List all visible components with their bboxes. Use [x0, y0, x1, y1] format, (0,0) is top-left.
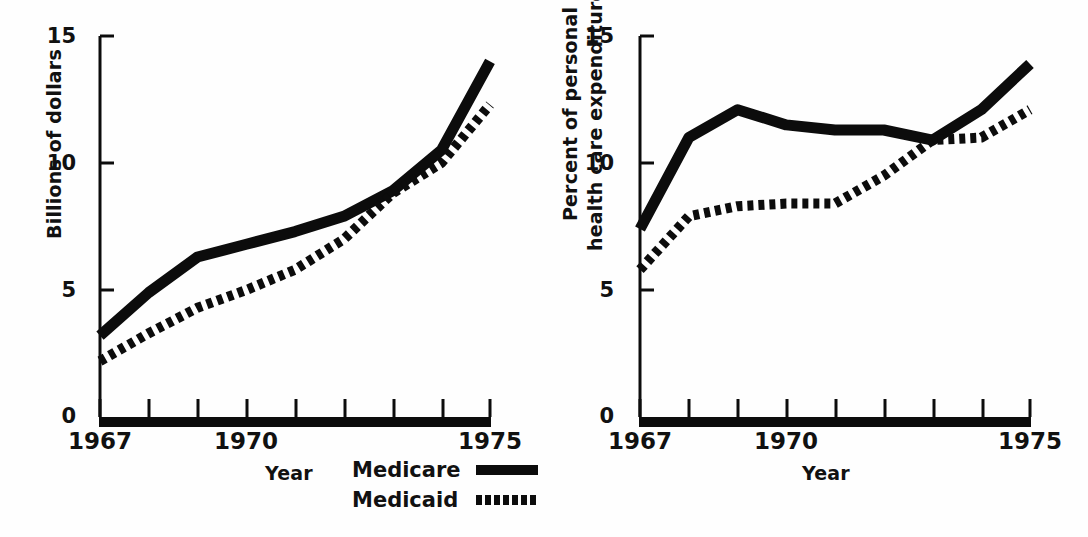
x-tick-label-1967-right: 1967: [608, 428, 672, 454]
legend-row-medicaid: Medicaid: [352, 485, 538, 515]
x-axis-left: [99, 399, 491, 427]
x-tick-label-1975-right: 1975: [998, 428, 1062, 454]
series-line-medicare-left: [100, 61, 490, 335]
x-tick-label-1967-left: 1967: [68, 428, 132, 454]
plot-area-right: [544, 0, 1088, 537]
x-tick-label-1970-left: 1970: [214, 428, 278, 454]
legend-row-medicare: Medicare: [352, 455, 538, 485]
legend: Medicare Medicaid: [352, 455, 538, 515]
x-axis-right: [639, 399, 1031, 427]
legend-swatch-solid-line-icon: [476, 465, 538, 475]
legend-label-medicare: Medicare: [352, 458, 470, 482]
x-axis-title-left: Year: [265, 462, 313, 484]
chart-panel-left: Billions of dollars 15 10 5 0: [0, 0, 544, 537]
figure-two-line-charts: Billions of dollars 15 10 5 0: [0, 0, 1088, 537]
x-axis-title-right: Year: [802, 462, 850, 484]
series-line-medicare-right: [640, 64, 1030, 229]
legend-swatch-dotted-line-icon: [476, 495, 538, 505]
chart-panel-right: Percent of personal health care expendit…: [544, 0, 1088, 537]
legend-label-medicaid: Medicaid: [352, 488, 470, 512]
x-tick-label-1975-left: 1975: [458, 428, 522, 454]
x-tick-label-1970-right: 1970: [754, 428, 818, 454]
